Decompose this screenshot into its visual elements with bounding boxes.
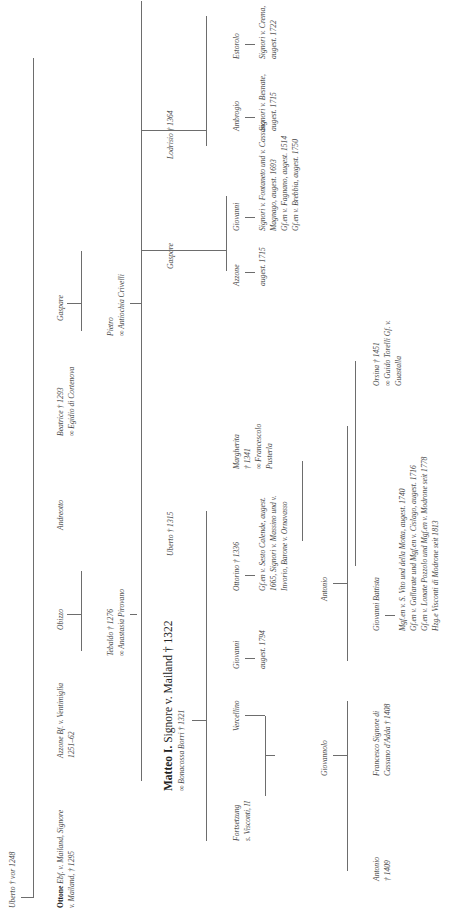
- person-desc: ∞ Francescolo: [254, 424, 265, 469]
- person-pietro: Pietro: [106, 317, 117, 336]
- person-desc: Cassano d'Adda † 1408: [383, 704, 394, 776]
- person-desc: ∞ Antiochia Crivelli: [117, 274, 128, 336]
- connector: [265, 716, 266, 796]
- person-desc: ∞ Egidio di Cortenova: [67, 367, 78, 436]
- connector: [141, 130, 206, 131]
- person-spouse: ∞ Bonacossa Borri † 1321: [177, 710, 188, 791]
- person-vercellino: Vercellino: [232, 700, 243, 731]
- person-francesco: Francesco Signore di: [372, 711, 383, 776]
- connector: [245, 272, 255, 273]
- person-beatrice: Beatrice † 1293: [56, 387, 67, 436]
- connector: [245, 117, 255, 118]
- person-desc: augest. 1715: [269, 92, 280, 131]
- person-desc: 1251–62: [67, 731, 78, 758]
- person-desc: Gf.en v. Fagnano, augest. 1514: [280, 136, 291, 231]
- genealogy-chart: Uberto † vor 1248 Ottone Ebf. v. Mailand…: [0, 0, 472, 921]
- person-obizzo: Obizzo: [56, 609, 67, 630]
- connector: [265, 755, 275, 756]
- connector: [192, 720, 206, 721]
- person-desc: Hzg.e Visconti di Modrone seit 1813: [431, 520, 442, 631]
- connector: [226, 196, 227, 271]
- person-uberto-root: Uberto † vor 1248: [8, 852, 19, 908]
- connector: [385, 615, 395, 616]
- person-desc: Gf.en v. Gallarate und Mgf.en v. Cislago…: [409, 465, 420, 631]
- person-desc: s. Visconti, II: [243, 801, 254, 841]
- connector: [347, 426, 348, 661]
- connector: [67, 614, 81, 615]
- connector: [333, 583, 348, 584]
- person-desc: augest. 1794: [258, 630, 269, 669]
- person-giovannolo: Giovannolo: [320, 740, 331, 776]
- person-desc: ∞ Guido Torelli Gf. v.: [383, 320, 394, 386]
- person-azzone-bf: Azzone Bf. v. Ventimiglia: [56, 683, 67, 758]
- person-desc: Pusterla: [265, 443, 276, 469]
- connector: [245, 715, 265, 716]
- connector: [245, 44, 255, 45]
- connector: [81, 251, 82, 331]
- person-desc: Signori v. Besnate,: [258, 74, 269, 131]
- person-matteo: Matteo I. Signore v. Mailand † 1322: [163, 621, 174, 791]
- connector: [141, 250, 226, 251]
- person-andreotto: Andreotto: [56, 500, 67, 530]
- person-desc: Gf.en v. Lonate Pozzolo und Mgf.en v. Mo…: [420, 457, 431, 631]
- person-ottorino: Ottorino † 1336: [232, 542, 243, 591]
- person-desc: Gf.en v. Brebbia, augest. 1750: [291, 139, 302, 231]
- connector: [245, 658, 255, 659]
- person-desc: 1665, Signori v. Massino und v.: [269, 496, 280, 591]
- connector: [245, 575, 255, 576]
- person-desc: Mgf.en v. S. Vito und della Motta, auges…: [398, 488, 409, 631]
- person-antonio-1409: Antonio: [372, 857, 383, 881]
- connector: [206, 16, 207, 146]
- person-tebaldo: Tebaldo † 1276: [106, 609, 117, 656]
- person-fortsetzung: Fortsetzung: [232, 805, 243, 841]
- person-desc: † 1341: [243, 448, 254, 469]
- person-desc: Guastalla: [394, 356, 405, 386]
- person-uberto-2: Uberto † 1315: [166, 512, 177, 556]
- connector: [206, 511, 207, 841]
- person-orsina: Orsina † 1451: [372, 342, 383, 386]
- connector: [333, 755, 348, 756]
- connector: [81, 571, 82, 651]
- person-desc: Ebf. v. Mailand, Signore: [56, 810, 65, 884]
- person-antonio: Antonio: [320, 577, 331, 601]
- person-desc: augest. 1722: [269, 20, 280, 59]
- person-giovanni-battista: Giovanni Battista: [372, 577, 383, 631]
- connector: [347, 701, 348, 871]
- connector: [33, 58, 34, 898]
- person-ambrogio: Ambrogio: [232, 101, 243, 131]
- person-name: Ottone: [56, 886, 65, 908]
- person-margherita: Margherita: [232, 434, 243, 469]
- person-name: Matteo I.: [162, 746, 174, 791]
- connector: [302, 461, 303, 541]
- person-gaspare-2: Gaspare: [166, 243, 177, 269]
- connector: [245, 217, 255, 218]
- person-desc: augest. 1715: [258, 247, 269, 286]
- person-desc: ∞ Anastasia Pirovano: [117, 589, 128, 656]
- person-estorolo: Estorolo: [232, 33, 243, 59]
- person-desc: v. Mailand, † 1295: [67, 851, 78, 908]
- person-desc: Magnago, augest. 1693: [269, 159, 280, 231]
- person-desc: Signori v. Fontaneto und v. Cassano: [258, 121, 269, 231]
- person-azzone-2: Azzone: [232, 264, 243, 286]
- connector: [130, 614, 137, 615]
- person-desc: † 1409: [383, 860, 394, 881]
- person-desc: Invorio, Barone v. Ornavasso: [280, 501, 291, 591]
- person-gaspare: Gaspare: [56, 295, 67, 321]
- person-desc: Signore v. Mailand † 1322: [162, 621, 174, 743]
- person-giovanni-2: Giovanni: [232, 203, 243, 231]
- person-desc: Gf.en v. Sesto Calende, augest.: [258, 497, 269, 591]
- person-ottone: Ottone Ebf. v. Mailand, Signore: [56, 810, 67, 908]
- person-giovanni: Giovanni: [232, 641, 243, 669]
- connector: [141, 1, 142, 781]
- connector: [67, 303, 81, 304]
- person-desc: Signori v. Crema,: [258, 6, 269, 59]
- connector: [355, 361, 356, 566]
- person-lodrisio: Lodrisio † 1364: [166, 110, 177, 159]
